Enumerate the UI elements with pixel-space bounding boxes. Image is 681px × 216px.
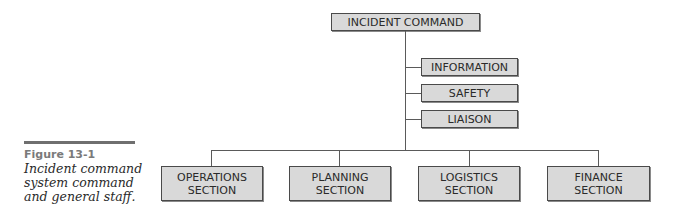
information-box: INFORMATION	[421, 58, 518, 76]
connector-information	[405, 67, 421, 68]
connector-safety	[405, 93, 421, 94]
stem-planning	[339, 150, 340, 166]
trunk-line	[405, 31, 406, 150]
liaison-label: LIAISON	[447, 113, 491, 126]
safety-label: SAFETY	[449, 87, 490, 100]
figure-caption: Figure 13-1 Incident command system comm…	[24, 147, 154, 204]
planning-label-line2: SECTION	[316, 184, 364, 197]
stem-operations	[211, 150, 212, 166]
operations-label-line1: OPERATIONS	[177, 171, 247, 184]
information-label: INFORMATION	[431, 61, 508, 74]
caption-rule	[24, 141, 135, 144]
logistics-label-line1: LOGISTICS	[440, 171, 498, 184]
caption-text: Incident command system command and gene…	[24, 161, 142, 204]
stem-logistics	[469, 150, 470, 166]
finance-label-line1: FINANCE	[574, 171, 622, 184]
operations-section-box: OPERATIONS SECTION	[161, 166, 263, 201]
liaison-box: LIAISON	[421, 110, 518, 128]
planning-label-line1: PLANNING	[312, 171, 369, 184]
safety-box: SAFETY	[421, 84, 518, 102]
finance-section-box: FINANCE SECTION	[547, 166, 650, 201]
figure-label: Figure 13-1	[24, 148, 95, 161]
stem-finance	[598, 150, 599, 166]
logistics-label-line2: SECTION	[445, 184, 493, 197]
operations-label-line2: SECTION	[188, 184, 236, 197]
incident-command-label: INCIDENT COMMAND	[348, 16, 464, 29]
planning-section-box: PLANNING SECTION	[289, 166, 391, 201]
general-staff-bus	[211, 150, 599, 151]
finance-label-line2: SECTION	[574, 184, 622, 197]
connector-liaison	[405, 119, 421, 120]
incident-command-box: INCIDENT COMMAND	[331, 13, 480, 31]
logistics-section-box: LOGISTICS SECTION	[418, 166, 520, 201]
